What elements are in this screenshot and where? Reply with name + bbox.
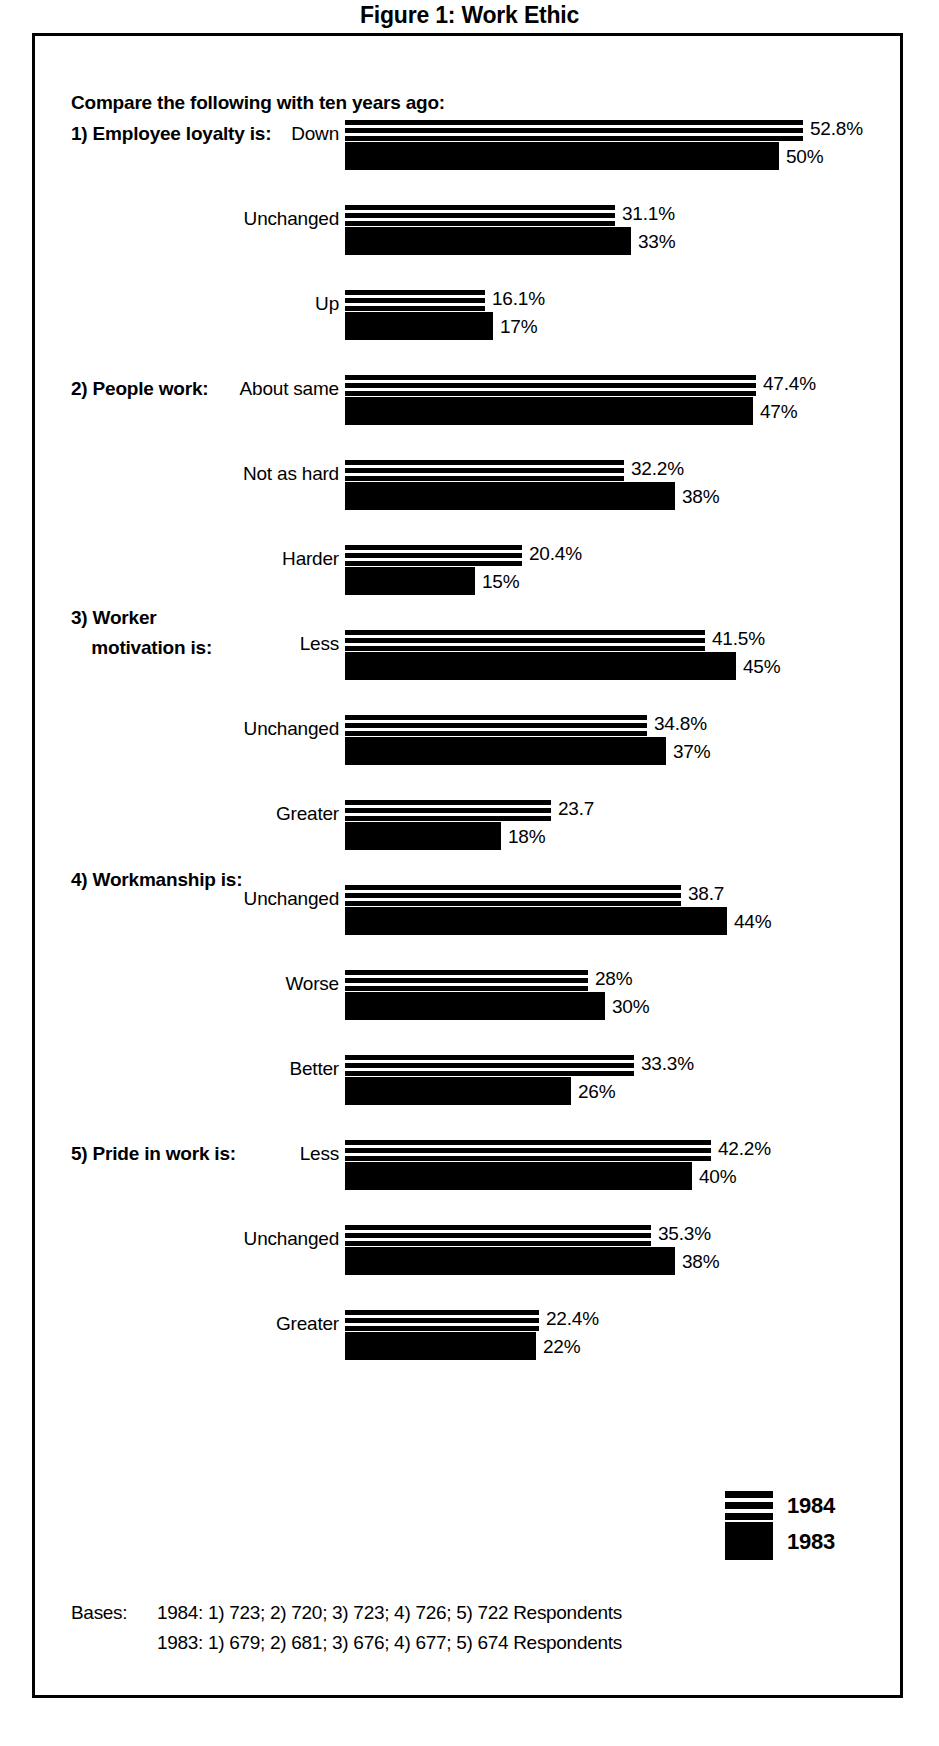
bases-row-1984: Bases:1984: 1) 723; 2) 720; 3) 723; 4) 7… bbox=[71, 1598, 622, 1628]
legend-swatch-1984 bbox=[725, 1491, 773, 1524]
category-label: Harder bbox=[35, 548, 339, 570]
bar-value-1984: 22.4% bbox=[546, 1308, 599, 1330]
group-question-3: motivation is: bbox=[71, 637, 212, 659]
group-question-5: 5) Pride in work is: bbox=[71, 1143, 236, 1165]
category-label: Unchanged bbox=[35, 208, 339, 230]
bar-value-1983: 18% bbox=[508, 826, 545, 848]
bar-value-1984: 31.1% bbox=[622, 203, 675, 225]
category-label: Up bbox=[35, 293, 339, 315]
category-label: Greater bbox=[35, 803, 339, 825]
legend-label-1983: 1983 bbox=[787, 1529, 835, 1555]
category-label: Unchanged bbox=[35, 718, 339, 740]
bases-text-1983: 1983: 1) 679; 2) 681; 3) 676; 4) 677; 5)… bbox=[157, 1632, 622, 1653]
bar-1983 bbox=[345, 1162, 692, 1190]
bar-1983 bbox=[345, 482, 675, 510]
bar-value-1983: 44% bbox=[734, 911, 771, 933]
bar-value-1983: 47% bbox=[760, 401, 797, 423]
bar-1983 bbox=[345, 312, 493, 340]
bar-1984 bbox=[345, 1310, 539, 1331]
bar-1984 bbox=[345, 460, 624, 481]
category-label: Greater bbox=[35, 1313, 339, 1335]
bar-value-1983: 17% bbox=[500, 316, 537, 338]
bar-1983 bbox=[345, 907, 727, 935]
bar-1983 bbox=[345, 142, 779, 170]
bar-1984 bbox=[345, 800, 551, 821]
bar-1983 bbox=[345, 1077, 571, 1105]
bar-1984 bbox=[345, 970, 588, 991]
group-question-3: 3) Worker bbox=[71, 607, 157, 629]
bar-value-1983: 45% bbox=[743, 656, 780, 678]
chart-legend: 1984 1983 bbox=[725, 1491, 885, 1577]
legend-swatch-1983 bbox=[725, 1522, 773, 1560]
group-question-4: 4) Workmanship is: bbox=[71, 869, 242, 891]
category-label: Unchanged bbox=[35, 888, 339, 910]
bar-1983 bbox=[345, 652, 736, 680]
legend-label-1984: 1984 bbox=[787, 1493, 835, 1519]
bar-1984 bbox=[345, 1055, 634, 1076]
bar-value-1984: 35.3% bbox=[658, 1223, 711, 1245]
bar-value-1983: 40% bbox=[699, 1166, 736, 1188]
bar-value-1984: 20.4% bbox=[529, 543, 582, 565]
bar-value-1984: 52.8% bbox=[810, 118, 863, 140]
bar-1984 bbox=[345, 885, 681, 906]
bar-1983 bbox=[345, 397, 753, 425]
figure-title: Figure 1: Work Ethic bbox=[0, 2, 939, 29]
bases-text-1984: 1984: 1) 723; 2) 720; 3) 723; 4) 726; 5)… bbox=[157, 1602, 622, 1623]
bar-1984 bbox=[345, 1225, 651, 1246]
bar-1984 bbox=[345, 205, 615, 226]
bar-value-1983: 50% bbox=[786, 146, 823, 168]
bar-value-1984: 47.4% bbox=[763, 373, 816, 395]
bar-value-1984: 23.7 bbox=[558, 798, 594, 820]
bar-value-1983: 15% bbox=[482, 571, 519, 593]
bar-value-1984: 38.7 bbox=[688, 883, 724, 905]
category-label: Worse bbox=[35, 973, 339, 995]
bar-value-1983: 38% bbox=[682, 1251, 719, 1273]
bar-1983 bbox=[345, 822, 501, 850]
bases-row-1983: 1983: 1) 679; 2) 681; 3) 676; 4) 677; 5)… bbox=[71, 1628, 622, 1658]
bases-label: Bases: bbox=[71, 1598, 157, 1628]
bar-value-1983: 33% bbox=[638, 231, 675, 253]
category-label: Better bbox=[35, 1058, 339, 1080]
bar-1983 bbox=[345, 567, 475, 595]
bar-1983 bbox=[345, 1332, 536, 1360]
bar-1984 bbox=[345, 375, 756, 396]
bar-1984 bbox=[345, 715, 647, 736]
bar-1984 bbox=[345, 1140, 711, 1161]
group-question-2: 2) People work: bbox=[71, 378, 208, 400]
bar-value-1984: 41.5% bbox=[712, 628, 765, 650]
chart-frame: Compare the following with ten years ago… bbox=[32, 33, 903, 1698]
bar-value-1984: 28% bbox=[595, 968, 632, 990]
bar-1983 bbox=[345, 1247, 675, 1275]
bar-value-1984: 16.1% bbox=[492, 288, 545, 310]
bar-value-1984: 32.2% bbox=[631, 458, 684, 480]
bases-note: Bases:1984: 1) 723; 2) 720; 3) 723; 4) 7… bbox=[71, 1598, 622, 1658]
bar-1984 bbox=[345, 120, 803, 141]
category-label: Not as hard bbox=[35, 463, 339, 485]
bar-value-1984: 42.2% bbox=[718, 1138, 771, 1160]
bar-value-1984: 34.8% bbox=[654, 713, 707, 735]
bar-1983 bbox=[345, 992, 605, 1020]
bar-1983 bbox=[345, 737, 666, 765]
bar-value-1983: 22% bbox=[543, 1336, 580, 1358]
bar-value-1983: 30% bbox=[612, 996, 649, 1018]
group-question-1: 1) Employee loyalty is: bbox=[71, 123, 271, 145]
bar-value-1983: 37% bbox=[673, 741, 710, 763]
bar-1983 bbox=[345, 227, 631, 255]
bar-value-1984: 33.3% bbox=[641, 1053, 694, 1075]
bar-1984 bbox=[345, 290, 485, 311]
bar-chart-plot: 52.8%50%Down31.1%33%Unchanged16.1%17%Up1… bbox=[35, 36, 900, 1695]
bar-1984 bbox=[345, 545, 522, 566]
bar-value-1983: 26% bbox=[578, 1081, 615, 1103]
category-label: Unchanged bbox=[35, 1228, 339, 1250]
bar-value-1983: 38% bbox=[682, 486, 719, 508]
bar-1984 bbox=[345, 630, 705, 651]
